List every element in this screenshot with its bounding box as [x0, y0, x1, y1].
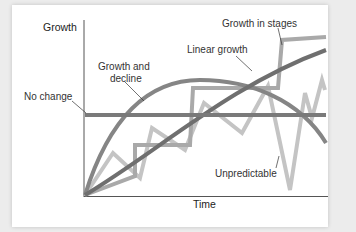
- label-growth-in-stages: Growth in stages: [222, 18, 297, 30]
- leader-linear: [236, 56, 252, 71]
- label-linear-growth: Linear growth: [187, 44, 248, 56]
- label-growth-and-decline: Growth and decline: [98, 61, 150, 85]
- growth-patterns-diagram: [0, 0, 356, 232]
- series-growth-and-decline: [85, 80, 326, 195]
- series-unpredictable: [85, 80, 325, 195]
- x-axis-label: Time: [193, 198, 216, 211]
- label-unpredictable: Unpredictable: [215, 168, 277, 180]
- label-no-change: No change: [24, 91, 72, 103]
- y-axis-label: Growth: [43, 21, 77, 34]
- leader-unpredictable: [276, 156, 279, 168]
